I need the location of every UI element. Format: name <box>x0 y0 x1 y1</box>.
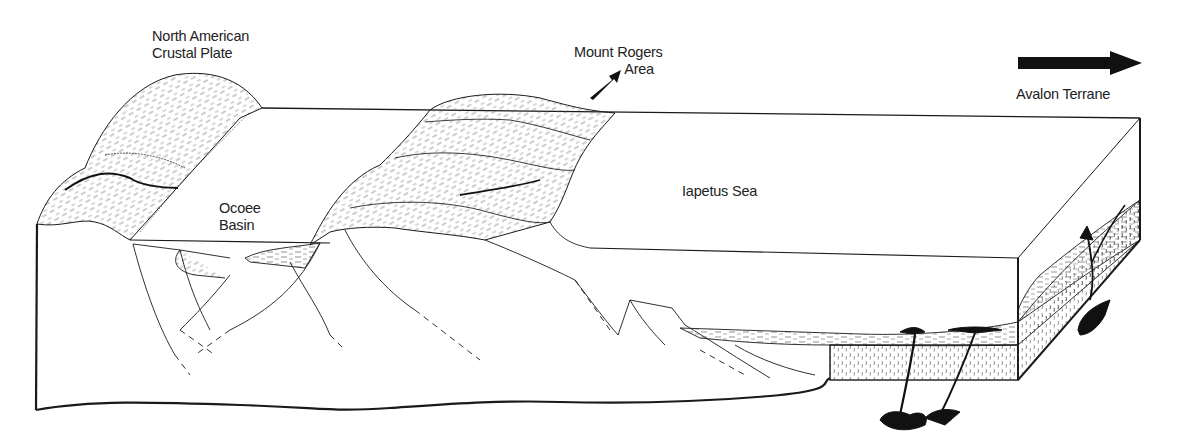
label-line: North American <box>152 28 249 45</box>
label-line: Ocoee <box>219 200 261 217</box>
ocoee-basin-faults <box>133 230 480 375</box>
label-line: Crustal Plate <box>152 45 249 62</box>
north-american-plate-label: North American Crustal Plate <box>152 28 249 62</box>
avalon-terrane-label: Avalon Terrane <box>1016 86 1110 103</box>
continental-slope <box>485 222 815 378</box>
mount-rogers-label: Mount Rogers Area <box>574 44 654 78</box>
ocoee-basin-label: Ocoee Basin <box>219 200 261 234</box>
label-line: Area <box>574 61 654 78</box>
sediment-layer <box>680 322 1018 346</box>
crust-block-front <box>830 345 1018 380</box>
label-line: Basin <box>219 217 261 234</box>
iapetus-sea-label: Iapetus Sea <box>682 183 757 200</box>
central-highland <box>310 94 615 245</box>
arrow-right-icon <box>1018 51 1142 75</box>
magma-intrusions <box>880 205 1125 430</box>
label-line: Mount Rogers <box>574 44 654 61</box>
